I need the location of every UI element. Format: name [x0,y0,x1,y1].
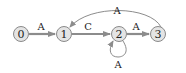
edge-label-1-2: C [84,21,92,32]
node-1: 1 [57,27,72,42]
node-3: 3 [151,27,166,42]
node-3-label: 3 [155,28,162,41]
edge-label-2-2: A [113,59,122,70]
edge-1-to-2: C [72,21,110,34]
state-diagram: A C A A A 0 1 2 3 [0,0,186,73]
edge-0-to-1: A [29,21,55,34]
edge-2-to-3: A [127,21,149,34]
edge-label-0-1: A [36,21,45,32]
edge-2-self-loop: A [110,41,126,70]
edge-label-2-3: A [131,21,140,32]
node-1-label: 1 [61,28,68,41]
node-2-label: 2 [116,28,123,41]
edge-label-3-1: A [112,5,121,16]
node-0-label: 0 [18,28,25,41]
node-2: 2 [112,27,127,42]
node-0: 0 [14,27,29,42]
